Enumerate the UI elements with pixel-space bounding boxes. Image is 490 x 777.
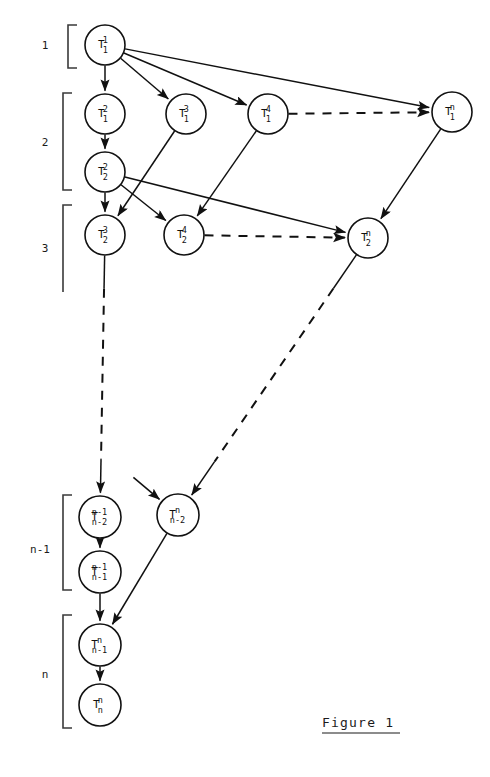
edge-incoming-stub-to-Tn-2n — [133, 477, 159, 499]
node-superscript-T_n-2^n: n — [175, 505, 180, 515]
edge-T22-to-T24-stroke — [121, 185, 166, 221]
edge-T24-to-T2n-dashed — [204, 235, 344, 237]
node-T_n-1^n-1[interactable]: Tn-1n-1 — [79, 551, 121, 593]
figure-diagram: T11T21T31T41Tn1T22T32T42Tn2Tn-1n-2Tnn-2T… — [0, 0, 490, 777]
node-superscript-T_2^4: 4 — [182, 225, 187, 235]
node-subscript-T_n-1^n-1: n-1 — [92, 572, 107, 582]
diagram-canvas: T11T21T31T41Tn1T22T32T42Tn2Tn-1n-2Tnn-2T… — [0, 0, 490, 777]
node-superscript-T_1^2: 2 — [103, 104, 108, 114]
bracket-row-2-stroke — [63, 93, 72, 190]
row-label-n: n — [42, 668, 49, 681]
node-subscript-T_n-2^n: n-2 — [170, 515, 185, 525]
bracket-row-n-1 — [63, 495, 72, 590]
node-superscript-T_n-1^n-1: n-1 — [92, 562, 107, 572]
node-T_1^1[interactable]: T11 — [85, 25, 125, 65]
node-T_n-2^n-1[interactable]: Tn-1n-2 — [79, 496, 121, 538]
node-superscript-T_2^3: 3 — [103, 225, 108, 235]
node-T_1^3[interactable]: T31 — [166, 94, 206, 134]
edge-T2n-to-Tn-2n — [192, 255, 357, 495]
row-label-3: 3 — [42, 242, 49, 255]
node-T_2^4[interactable]: T42 — [164, 215, 204, 255]
node-superscript-T_2^n: n — [366, 228, 371, 238]
edge-T23-to-Tn-2n-1-tail-stub — [100, 460, 101, 493]
bracket-row-3-stroke — [63, 205, 72, 292]
node-T_2^2[interactable]: T22 — [85, 152, 125, 192]
edge-T14-to-T1n-dashed-stroke — [288, 112, 428, 114]
edge-T24-to-T2n-dashed-stroke — [204, 235, 344, 237]
node-subscript-T_1^3: 1 — [184, 114, 189, 124]
node-subscript-T_2^n: 2 — [366, 238, 371, 248]
bracket-row-1-stroke — [68, 25, 77, 68]
edge-T22-to-T2n — [125, 177, 346, 232]
node-subscript-T_n^n: n — [98, 705, 103, 715]
node-subscript-T_2^4: 2 — [182, 235, 187, 245]
edge-T13-to-T23-stroke — [118, 131, 175, 216]
edges-group — [100, 49, 441, 681]
node-T_n-1^n[interactable]: Tnn-1 — [79, 624, 121, 666]
edge-T2n-to-Tn-2n-dashed-mid — [215, 289, 334, 462]
node-superscript-T_2^2: 2 — [103, 162, 108, 172]
bracket-row-n-1-stroke — [63, 495, 72, 590]
node-T_1^2[interactable]: T21 — [85, 94, 125, 134]
edge-T14-to-T1n-dashed — [288, 112, 428, 114]
edge-T1n-to-T2n — [381, 129, 441, 219]
node-superscript-T_1^n: n — [450, 102, 455, 112]
edge-T1n-to-T2n-stroke — [381, 129, 441, 219]
row-label-2: 2 — [42, 136, 49, 149]
edge-T22-to-T24 — [121, 185, 166, 221]
edge-T2n-to-Tn-2n-head-stub — [333, 255, 356, 289]
bracket-row-2 — [63, 93, 72, 190]
node-superscript-T_1^3: 3 — [184, 104, 189, 114]
bracket-row-n-stroke — [63, 615, 72, 728]
node-superscript-T_n-2^n-1: n-1 — [92, 507, 107, 517]
edge-T23-to-Tn-2n-1 — [100, 255, 104, 492]
bracket-row-3 — [63, 205, 72, 292]
node-subscript-T_2^2: 2 — [103, 172, 108, 182]
node-T_1^n[interactable]: Tn1 — [432, 92, 472, 132]
edge-T13-to-T23 — [118, 131, 175, 216]
caption-label: Figure 1 — [322, 715, 394, 730]
node-T_n^n[interactable]: Tnn — [79, 684, 121, 726]
node-superscript-T_1^1: 1 — [103, 35, 108, 45]
node-T_1^4[interactable]: T41 — [248, 94, 288, 134]
edge-T23-to-Tn-2n-1-head-stub — [104, 255, 105, 288]
nodes-group: T11T21T31T41Tn1T22T32T42Tn2Tn-1n-2Tnn-2T… — [79, 25, 472, 726]
edge-T11-to-T13 — [121, 58, 169, 99]
node-superscript-T_n-1^n: n — [97, 635, 102, 645]
bracket-row-n — [63, 615, 72, 728]
node-subscript-T_1^2: 1 — [103, 114, 108, 124]
node-superscript-T_1^4: 4 — [266, 104, 271, 114]
edge-T11-to-T13-stroke — [121, 58, 169, 99]
row-label-n-1: n-1 — [30, 543, 50, 556]
bracket-row-1 — [68, 25, 77, 68]
node-subscript-T_1^4: 1 — [266, 114, 271, 124]
node-subscript-T_2^3: 2 — [103, 235, 108, 245]
node-T_n-2^n[interactable]: Tnn-2 — [157, 494, 199, 536]
edge-incoming-stub-to-Tn-2n-stroke — [133, 477, 159, 499]
node-subscript-T_n-1^n: n-1 — [92, 645, 107, 655]
node-superscript-T_n^n: n — [98, 695, 103, 705]
edge-T22-to-T2n-stroke — [125, 177, 346, 232]
node-T_2^3[interactable]: T32 — [85, 215, 125, 255]
edge-T2n-to-Tn-2n-tail-stub — [192, 461, 215, 495]
row-brackets-group — [63, 25, 77, 728]
figure-caption: Figure 1 — [322, 715, 400, 733]
node-T_2^n[interactable]: Tn2 — [348, 218, 388, 258]
node-subscript-T_1^n: 1 — [450, 112, 455, 122]
row-label-1: 1 — [42, 39, 49, 52]
edge-T23-to-Tn-2n-1-dashed-mid — [101, 289, 104, 460]
node-subscript-T_1^1: 1 — [103, 45, 108, 55]
node-subscript-T_n-2^n-1: n-2 — [92, 517, 107, 527]
row-labels-group: 123n-1n — [30, 39, 50, 681]
